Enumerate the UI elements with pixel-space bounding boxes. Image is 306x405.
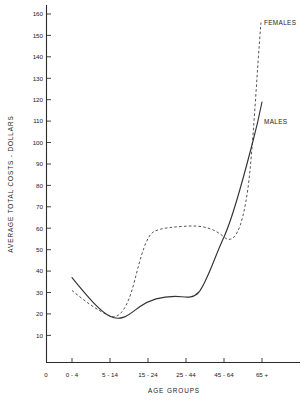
y-tick-label: 60 — [36, 225, 43, 232]
x-tick-label: 45 - 64 — [214, 371, 234, 378]
y-axis-ticks — [47, 14, 52, 335]
x-axis-title: AGE GROUPS — [148, 387, 200, 394]
x-axis-tick-labels: 0 0 - 4 5 - 14 15 - 24 25 - 44 45 - 64 6… — [44, 371, 268, 378]
x-tick-label: 15 - 24 — [138, 371, 158, 378]
y-tick-label: 90 — [36, 160, 43, 167]
y-axis-tick-labels: 160 150 140 130 120 110 100 90 80 70 60 … — [33, 10, 44, 338]
y-tick-label: 50 — [36, 246, 43, 253]
y-tick-label: 140 — [33, 53, 44, 60]
y-tick-label: 30 — [36, 289, 43, 296]
x-tick-label: 65 + — [256, 371, 269, 378]
y-tick-label: 160 — [33, 10, 44, 17]
x-tick-label: 25 - 44 — [176, 371, 196, 378]
x-tick-label: 5 - 14 — [102, 371, 118, 378]
series-label-males: MALES — [264, 118, 287, 125]
y-tick-label: 150 — [33, 32, 44, 39]
y-tick-label: 110 — [33, 117, 43, 124]
y-tick-label: 120 — [33, 96, 44, 103]
chart-figure: 160 150 140 130 120 110 100 90 80 70 60 … — [0, 0, 306, 405]
y-tick-label: 20 — [36, 310, 43, 317]
y-tick-label: 70 — [36, 203, 43, 210]
x-tick-label: 0 — [44, 371, 48, 378]
series-line-females — [72, 23, 261, 317]
y-axis-title: AVERAGE TOTAL COSTS - DOLLARS — [7, 115, 14, 252]
y-tick-label: 40 — [36, 267, 43, 274]
y-tick-label: 130 — [33, 75, 44, 82]
y-tick-label: 100 — [33, 139, 44, 146]
x-axis-ticks — [72, 358, 262, 363]
series-label-females: FEMALES — [264, 19, 296, 26]
x-tick-label: 0 - 4 — [66, 371, 79, 378]
series-line-males — [72, 102, 262, 318]
y-tick-label: 10 — [36, 332, 43, 339]
y-tick-label: 80 — [36, 182, 43, 189]
line-chart-canvas: 160 150 140 130 120 110 100 90 80 70 60 … — [0, 0, 306, 405]
